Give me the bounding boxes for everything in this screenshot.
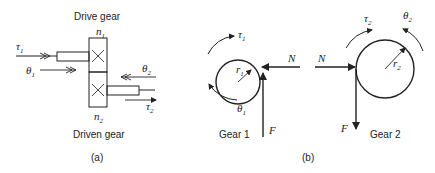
- gear-2-radius-label: r2: [393, 57, 401, 72]
- gear-2: r2 τ2 θ2 N F Gear 2: [315, 9, 423, 140]
- driven-gear-cross-icon: [92, 84, 104, 96]
- gear-2-theta-arc-arrow: [403, 29, 423, 51]
- gear-1-normal-force-label: N: [287, 52, 296, 64]
- panel-b-caption: (b): [302, 152, 314, 163]
- input-shaft: [57, 52, 89, 61]
- theta1-label: θ1: [26, 64, 35, 79]
- theta2-label: θ2: [142, 62, 151, 77]
- panel-a-caption: (a): [91, 152, 103, 163]
- gear-2-tau-label: τ2: [364, 12, 372, 27]
- gear-1-label: Gear 1: [219, 129, 250, 140]
- panel-a: Drive gear n1 τ1 θ1 θ2 τ2 n2 Driven gear…: [16, 11, 156, 163]
- drive-gear-label: Drive gear: [74, 11, 121, 22]
- panel-b: r1 τ1 θ1 N F Gear 1 r2 τ2 θ2 N F Gear 2: [208, 9, 423, 163]
- gear-1-tau-label: τ1: [238, 28, 245, 43]
- drive-gear-cross-icon: [92, 50, 104, 62]
- n2-label: n2: [94, 110, 104, 125]
- gear-diagram: Drive gear n1 τ1 θ1 θ2 τ2 n2 Driven gear…: [0, 0, 435, 173]
- gear-2-label: Gear 2: [370, 129, 401, 140]
- gear-2-normal-force-label: N: [317, 52, 326, 64]
- output-shaft: [107, 86, 139, 95]
- gear-1: r1 τ1 θ1 N F Gear 1: [208, 28, 300, 140]
- gear-2-theta-label: θ2: [403, 9, 412, 24]
- driven-gear-label: Driven gear: [73, 129, 125, 140]
- gear-2-force-label: F: [340, 122, 348, 134]
- gear-1-force-label: F: [268, 124, 276, 136]
- gear-1-tau-arc-arrow: [208, 36, 234, 54]
- drive-gear-block: [89, 38, 107, 72]
- gear-1-theta-label: θ1: [237, 102, 246, 117]
- tau2-label: τ2: [146, 100, 154, 115]
- gear-1-radius-label: r1: [236, 63, 244, 78]
- tau1-label: τ1: [16, 40, 23, 55]
